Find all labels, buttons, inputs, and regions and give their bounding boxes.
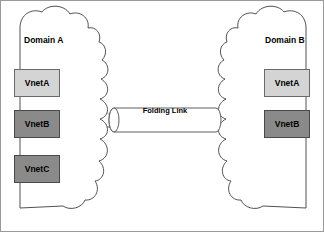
domain-b-vneta-label: VnetA: [275, 78, 300, 88]
domain-a-node-vnetc[interactable]: VnetC: [15, 156, 60, 183]
domain-b-cloud-group[interactable]: Domain B: [218, 6, 306, 208]
domain-a-label: Domain A: [24, 35, 63, 45]
domain-a-vnetc-label: VnetC: [25, 164, 50, 174]
domain-a-node-vnetb[interactable]: VnetB: [15, 111, 60, 138]
folding-link-cylinder-cap: [109, 108, 119, 132]
domain-b-node-vnetb[interactable]: VnetB: [265, 111, 310, 138]
domain-b-vnetb-label: VnetB: [275, 119, 300, 129]
domain-b-label: Domain B: [265, 35, 305, 45]
domain-a-vnetb-label: VnetB: [25, 119, 50, 129]
folding-link-label: Folding Link: [143, 106, 188, 115]
diagram-canvas: Domain A Domain B VnetA VnetB VnetC Vnet…: [0, 0, 324, 232]
domain-a-vneta-label: VnetA: [25, 78, 50, 88]
domain-b-node-vneta[interactable]: VnetA: [265, 70, 310, 97]
network-topology-diagram: Domain A Domain B VnetA VnetB VnetC Vnet…: [0, 0, 324, 232]
folding-link-group[interactable]: Folding Link: [109, 106, 221, 132]
domain-a-node-vneta[interactable]: VnetA: [15, 70, 60, 97]
